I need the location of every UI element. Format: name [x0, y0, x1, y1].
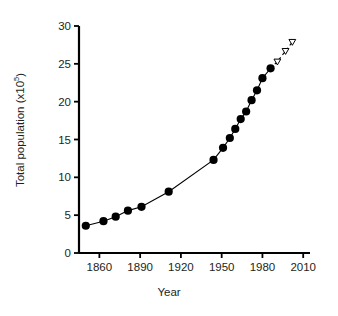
data-point-filled-circle [209, 156, 217, 164]
x-axis: 186018901920195019802010 [79, 253, 316, 273]
y-axis-tick-label: 20 [58, 96, 71, 108]
data-point-filled-circle [253, 86, 261, 94]
data-point-filled-circle [99, 217, 107, 225]
data-point-filled-circle [82, 222, 90, 230]
y-axis-tick-label: 30 [58, 20, 71, 32]
data-point-filled-circle [226, 134, 234, 142]
y-axis-tick-label: 10 [58, 171, 71, 183]
x-axis-label: Year [0, 286, 338, 298]
y-axis-tick-label: 0 [65, 247, 71, 259]
y-axis: 051015202530 [58, 20, 79, 259]
data-point-filled-circle [231, 125, 239, 133]
data-point-filled-circle [247, 96, 255, 104]
x-axis-tick-label: 1920 [168, 261, 194, 273]
data-point-filled-circle [242, 107, 250, 115]
y-axis-label-container: Total population (x105) [0, 0, 40, 260]
x-axis-tick-label: 1890 [127, 261, 153, 273]
y-axis-tick-label: 5 [65, 209, 71, 221]
x-axis-tick-label: 2010 [290, 261, 316, 273]
data-point-filled-circle [258, 74, 266, 82]
series-line [271, 42, 293, 68]
y-axis-label-exponent: 5 [12, 77, 21, 81]
y-axis-label: Total population (x105) [14, 73, 26, 187]
data-point-filled-circle [165, 188, 173, 196]
data-point-filled-circle [112, 213, 120, 221]
data-point-filled-circle [237, 115, 245, 123]
y-axis-tick-label: 15 [58, 134, 71, 146]
y-axis-tick-label: 25 [58, 58, 71, 70]
data-series-group [82, 39, 296, 229]
series-line [86, 68, 271, 225]
x-axis-tick-label: 1980 [250, 261, 276, 273]
y-axis-label-suffix: ) [14, 73, 26, 77]
chart-figure: Total population (x105) Year 05101520253… [0, 0, 338, 316]
x-axis-tick-label: 1860 [87, 261, 113, 273]
plot-area: 051015202530 186018901920195019802010 [0, 0, 338, 316]
x-axis-tick-label: 1950 [209, 261, 235, 273]
y-axis-label-text: Total population (x10 [14, 81, 26, 187]
data-point-filled-circle [219, 144, 227, 152]
data-point-filled-circle [124, 207, 132, 215]
data-point-filled-circle [137, 203, 145, 211]
